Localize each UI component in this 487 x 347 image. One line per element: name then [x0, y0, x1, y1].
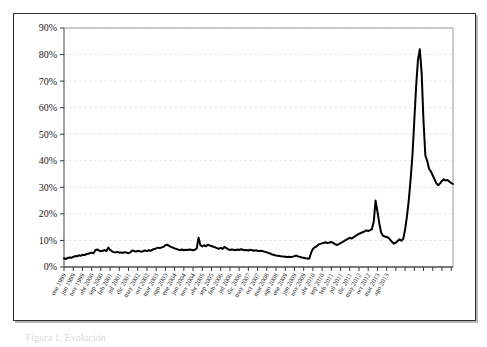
y-tick-label: 80% [39, 49, 57, 60]
y-tick-label: 0% [44, 261, 57, 272]
figure-caption-text: Figura 1. Evolución [26, 332, 326, 344]
y-tick-label: 70% [39, 76, 57, 87]
y-tick-label: 10% [39, 235, 57, 246]
grid-lines [64, 28, 453, 240]
y-tick-label: 40% [39, 155, 57, 166]
y-axis: 0%10%20%30%40%50%60%70%80%90% [39, 22, 64, 272]
figure-frame: 0%10%20%30%40%50%60%70%80%90%ene 1999jun… [13, 13, 476, 321]
y-tick-label: 20% [39, 208, 57, 219]
chart-plot: 0%10%20%30%40%50%60%70%80%90%ene 1999jun… [14, 14, 477, 322]
figure-caption: Figura 1. Evolución [26, 332, 326, 346]
data-series-line [64, 49, 453, 259]
plot-area-border [64, 28, 453, 267]
y-tick-label: 50% [39, 129, 57, 140]
x-axis: ene 1999jun 1999nov 1999abr 2000sep 2000… [49, 267, 451, 298]
y-tick-label: 90% [39, 22, 57, 33]
y-tick-label: 60% [39, 102, 57, 113]
y-tick-label: 30% [39, 182, 57, 193]
